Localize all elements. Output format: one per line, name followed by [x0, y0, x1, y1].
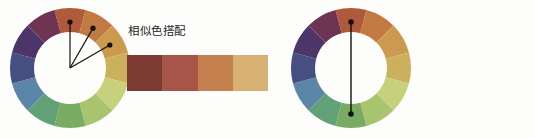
color-swatch-terracotta — [198, 55, 233, 91]
color-scheme-illustration: 相似色搭配 互补色搭配 — [0, 0, 534, 138]
analogous-scheme-panel: 相似色搭配 — [0, 0, 267, 138]
scheme-marker-dot — [348, 111, 354, 117]
color-swatch-brick-red — [162, 55, 197, 91]
color-swatch-dark-maroon — [127, 55, 162, 91]
analogous-color-wheel — [8, 6, 132, 130]
scheme-marker-dot — [107, 42, 112, 47]
color-wheel-graphic — [289, 6, 413, 130]
scheme-marker-dot — [348, 19, 354, 25]
color-wheel-graphic — [8, 6, 132, 130]
analogous-swatch-strip — [127, 55, 268, 91]
scheme-marker-dot — [90, 26, 95, 31]
complementary-color-wheel — [289, 6, 413, 130]
complementary-scheme-panel: 互补色搭配 — [267, 0, 534, 138]
color-swatch-tan-gold — [233, 55, 268, 91]
analogous-scheme-title: 相似色搭配 — [128, 26, 186, 38]
scheme-marker-dot — [67, 19, 72, 24]
